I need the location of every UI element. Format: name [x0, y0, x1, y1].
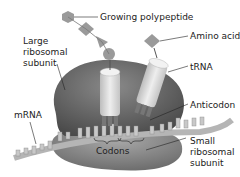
label-small-subunit-line3: subunit [190, 158, 224, 168]
label-trna: tRNA [190, 62, 213, 72]
label-anticodon: Anticodon [190, 100, 235, 110]
ribosome-diagram: Growing polypeptide Amino acid Large rib… [0, 0, 240, 177]
label-large-subunit-line3: subunit [23, 58, 57, 68]
label-large-subunit-line2: ribosomal [23, 47, 67, 57]
label-codons: Codons [96, 146, 129, 156]
trna-left [100, 68, 120, 126]
label-small-subunit-line1: Small [190, 136, 215, 146]
label-amino-acid: Amino acid [190, 31, 240, 41]
amino-acid-free [144, 34, 160, 48]
label-mrna: mRNA [14, 110, 42, 120]
label-small-subunit-line2: ribosomal [190, 147, 234, 157]
label-large-subunit-line1: Large [23, 36, 48, 46]
label-growing-polypeptide: Growing polypeptide [100, 12, 193, 22]
